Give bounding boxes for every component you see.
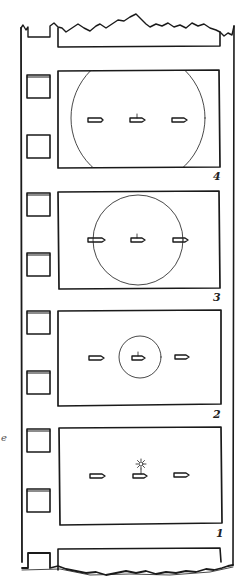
sprocket-hole bbox=[27, 193, 50, 216]
ships bbox=[89, 352, 189, 360]
sprocket-hole bbox=[27, 429, 50, 452]
frame-label-1: 1 bbox=[216, 527, 224, 540]
frame-2 bbox=[58, 310, 221, 406]
frame-label-4: 4 bbox=[213, 170, 221, 183]
top-frame-stub bbox=[58, 28, 220, 47]
torn-top-edge bbox=[21, 14, 234, 37]
ships bbox=[88, 114, 187, 122]
ships bbox=[90, 473, 189, 478]
strip-left-edge bbox=[21, 28, 22, 562]
sprocket-hole bbox=[27, 311, 50, 334]
bottom-frame-stub bbox=[58, 548, 221, 570]
frame-label-3: 3 bbox=[213, 291, 221, 304]
frame-1 bbox=[59, 427, 222, 525]
sprocket-hole bbox=[27, 135, 50, 158]
sprocket-hole bbox=[27, 253, 50, 276]
sprocket-holes bbox=[27, 75, 50, 512]
torn-bottom-edge bbox=[22, 553, 233, 575]
frame-4 bbox=[58, 51, 220, 185]
sprocket-hole bbox=[27, 75, 50, 98]
frame-3 bbox=[58, 191, 220, 289]
sprocket-hole bbox=[27, 489, 50, 512]
light-sphere bbox=[93, 195, 183, 285]
frame-label-2: 2 bbox=[213, 408, 221, 421]
film-strip bbox=[0, 0, 244, 585]
strip-right-edge bbox=[233, 26, 234, 565]
ships bbox=[88, 234, 188, 242]
side-mark: e bbox=[1, 432, 7, 443]
flash-icon bbox=[136, 459, 146, 474]
light-sphere bbox=[119, 336, 161, 378]
sprocket-hole bbox=[27, 371, 50, 394]
